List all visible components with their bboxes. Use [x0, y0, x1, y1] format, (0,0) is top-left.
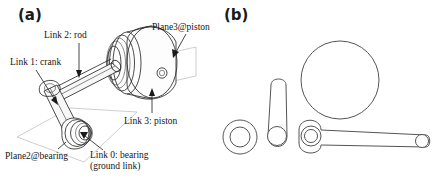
panel-label-a: (a) — [18, 6, 42, 24]
figure-root: (a) (b) Link 2: rod Link 1: crank Plane3… — [0, 0, 444, 182]
callout-link-1-crank: Link 1: crank — [10, 57, 61, 68]
panel-label-b: (b) — [224, 6, 248, 24]
part-bearing-ring — [223, 120, 257, 154]
callout-plane3-piston: Plane3@piston — [152, 22, 210, 33]
bearing-boss — [62, 118, 93, 149]
part-crank-link — [268, 79, 288, 147]
part-rod-link — [299, 120, 430, 153]
leader-link-2-rod — [76, 43, 82, 78]
callout-link-2-rod: Link 2: rod — [44, 30, 87, 41]
leader-plane2-bearing — [58, 142, 66, 149]
callout-link-0-line2: (ground link) — [90, 161, 149, 172]
callout-plane2-bearing: Plane2@bearing — [5, 151, 68, 162]
callout-link-3-piston: Link 3: piston — [124, 116, 177, 127]
callout-link-0-line1: Link 0: bearing — [90, 150, 149, 160]
piston-cylinder — [107, 25, 179, 99]
part-piston-circle — [301, 41, 379, 119]
callout-link-0-bearing: Link 0: bearing (ground link) — [90, 150, 149, 172]
panel-b-drawing — [223, 41, 430, 154]
